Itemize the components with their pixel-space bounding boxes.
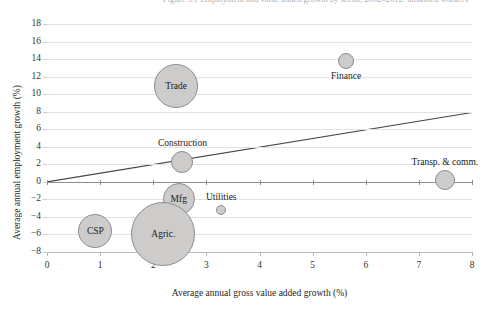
- gridline: [47, 164, 472, 165]
- y-tick-label: −8: [15, 247, 41, 257]
- y-tick-mark: [43, 112, 47, 113]
- y-tick-label: −4: [15, 212, 41, 222]
- figure-title: Figure 3.1 Employment and value added gr…: [0, 0, 476, 4]
- y-tick-mark: [43, 59, 47, 60]
- gridline: [47, 199, 472, 200]
- x-tick-label: 8: [460, 260, 483, 270]
- bubble-label: Construction: [158, 138, 207, 148]
- bubble-label: Trade: [165, 81, 187, 91]
- y-tick-mark: [43, 217, 47, 218]
- y-tick-label: 4: [15, 142, 41, 152]
- y-tick-label: 10: [15, 89, 41, 99]
- x-tick-mark: [366, 252, 367, 256]
- bubble-finance[interactable]: [338, 53, 354, 69]
- gridline: [47, 94, 472, 95]
- zero-line-tick: [260, 180, 261, 185]
- x-tick-label: 6: [354, 260, 378, 270]
- gridline: [47, 24, 472, 25]
- gridline: [47, 59, 472, 60]
- plot-area: 012345678TradeFinanceConstructionMfgAgri…: [47, 24, 472, 252]
- zero-line-tick: [100, 180, 101, 185]
- y-tick-mark: [43, 77, 47, 78]
- y-tick-mark: [43, 199, 47, 200]
- x-tick-mark: [47, 252, 48, 256]
- x-tick-mark: [206, 252, 207, 256]
- zero-line-tick: [206, 180, 207, 185]
- zero-line-tick: [313, 180, 314, 185]
- zero-line-tick: [153, 180, 154, 185]
- x-tick-mark: [260, 252, 261, 256]
- y-tick-mark: [43, 24, 47, 25]
- bubble-label: Finance: [331, 71, 361, 81]
- y-tick-label: 14: [15, 54, 41, 64]
- bubble-label: CSP: [87, 226, 104, 236]
- y-tick-label: 0: [15, 177, 41, 187]
- y-tick-mark: [43, 147, 47, 148]
- x-tick-mark: [419, 252, 420, 256]
- y-tick-label: 18: [15, 19, 41, 29]
- bubble-label: Agric.: [151, 229, 175, 239]
- y-tick-label: 12: [15, 72, 41, 82]
- y-tick-mark: [43, 234, 47, 235]
- gridline: [47, 217, 472, 218]
- y-tick-label: −2: [15, 194, 41, 204]
- x-tick-mark: [313, 252, 314, 256]
- bubble-transp-comm[interactable]: [435, 170, 455, 190]
- y-tick-mark: [43, 94, 47, 95]
- y-tick-label: −6: [15, 229, 41, 239]
- gridline: [47, 129, 472, 130]
- x-tick-label: 7: [407, 260, 431, 270]
- zero-line-tick: [419, 180, 420, 185]
- gridline: [47, 42, 472, 43]
- y-tick-label: 16: [15, 37, 41, 47]
- x-axis-title: Average annual gross value added growth …: [47, 288, 472, 298]
- x-tick-label: 4: [248, 260, 272, 270]
- bubble-agric[interactable]: Agric.: [131, 202, 195, 266]
- y-tick-label: 8: [15, 107, 41, 117]
- x-tick-label: 0: [35, 260, 59, 270]
- gridline: [47, 77, 472, 78]
- bubble-construction[interactable]: [171, 151, 193, 173]
- x-tick-mark: [100, 252, 101, 256]
- bubble-label: Transp. & comm.: [412, 157, 479, 167]
- y-tick-label: 6: [15, 124, 41, 134]
- zero-line-tick: [472, 180, 473, 185]
- y-tick-mark: [43, 42, 47, 43]
- x-tick-label: 1: [88, 260, 112, 270]
- x-tick-mark: [472, 252, 473, 256]
- zero-line-tick: [47, 180, 48, 185]
- bubble-label: Utilities: [206, 192, 237, 202]
- x-tick-label: 3: [194, 260, 218, 270]
- gridline: [47, 112, 472, 113]
- y-tick-mark: [43, 164, 47, 165]
- y-tick-label: 2: [15, 159, 41, 169]
- gridline: [47, 147, 472, 148]
- zero-line-tick: [366, 180, 367, 185]
- x-tick-label: 5: [301, 260, 325, 270]
- y-tick-mark: [43, 129, 47, 130]
